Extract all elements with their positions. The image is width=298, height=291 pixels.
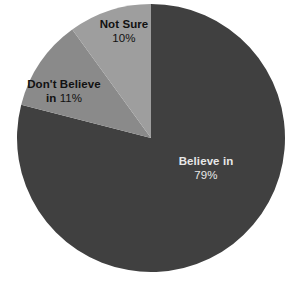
pie-label-dont-believe-in-value: in 11% bbox=[14, 92, 114, 106]
pie-label-believe-in: Believe in 79% bbox=[160, 155, 252, 182]
pie-label-believe-in-value: 79% bbox=[160, 169, 252, 183]
pie-label-not-sure-value: 10% bbox=[87, 32, 161, 46]
pie-label-believe-in-name: Believe in bbox=[160, 155, 252, 169]
pie-label-not-sure: Not Sure 10% bbox=[87, 18, 161, 45]
pie-label-dont-believe-in-percent: 11% bbox=[60, 92, 82, 104]
pie-label-not-sure-name: Not Sure bbox=[87, 18, 161, 32]
pie-chart-figure: Believe in 79% Don't Believe in 11% Not … bbox=[0, 0, 298, 291]
pie-label-dont-believe-in-value-bold: in bbox=[46, 92, 56, 104]
pie-label-dont-believe-in: Don't Believe in 11% bbox=[14, 78, 114, 105]
pie-label-dont-believe-in-name: Don't Believe bbox=[14, 78, 114, 92]
